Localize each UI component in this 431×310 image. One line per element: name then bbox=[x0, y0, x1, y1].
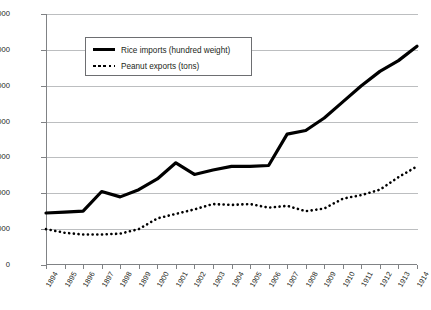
y-tick-label: 100,000 bbox=[0, 81, 10, 90]
legend-label-peanut-exports: Peanut exports (tons) bbox=[121, 62, 199, 71]
x-tick-mark bbox=[139, 265, 140, 269]
x-tick-mark bbox=[417, 265, 418, 269]
y-tick-label: 0 bbox=[0, 260, 10, 269]
x-tick-mark bbox=[306, 265, 307, 269]
x-tick-mark bbox=[176, 265, 177, 269]
x-tick-mark bbox=[120, 265, 121, 269]
x-tick-mark bbox=[361, 265, 362, 269]
series-line-peanut-exports bbox=[46, 166, 417, 234]
legend-item-rice-imports: Rice imports (hundred weight) bbox=[93, 43, 230, 57]
x-tick-mark bbox=[102, 265, 103, 269]
x-tick-mark bbox=[343, 265, 344, 269]
x-tick-mark bbox=[380, 265, 381, 269]
legend-label-rice-imports: Rice imports (hundred weight) bbox=[121, 46, 230, 55]
x-tick-mark bbox=[324, 265, 325, 269]
x-tick-mark bbox=[46, 265, 47, 269]
y-tick-label: 140,000 bbox=[0, 9, 10, 18]
x-tick-mark bbox=[194, 265, 195, 269]
y-tick-label: 40,000 bbox=[0, 188, 10, 197]
chart-legend: Rice imports (hundred weight) Peanut exp… bbox=[85, 37, 252, 76]
x-tick-mark bbox=[83, 265, 84, 269]
x-tick-mark bbox=[269, 265, 270, 269]
y-tick-label: 60,000 bbox=[0, 152, 10, 161]
x-tick-mark bbox=[250, 265, 251, 269]
x-tick-mark bbox=[65, 265, 66, 269]
legend-item-peanut-exports: Peanut exports (tons) bbox=[93, 59, 199, 73]
y-tick-label: 120,000 bbox=[0, 45, 10, 54]
y-tick-label: 80,000 bbox=[0, 117, 10, 126]
x-tick-mark bbox=[398, 265, 399, 269]
solid-line-swatch bbox=[93, 45, 115, 55]
dotted-line-swatch bbox=[93, 61, 115, 71]
x-tick-mark bbox=[232, 265, 233, 269]
x-tick-mark bbox=[157, 265, 158, 269]
y-tick-label: 20,000 bbox=[0, 224, 10, 233]
x-tick-mark bbox=[213, 265, 214, 269]
x-tick-mark bbox=[287, 265, 288, 269]
